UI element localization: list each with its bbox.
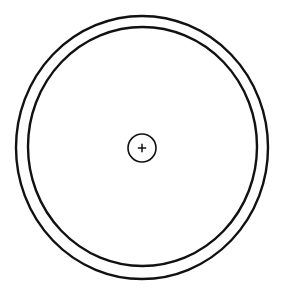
diagram-canvas xyxy=(0,0,283,292)
concentric-rings-diagram xyxy=(0,0,283,292)
center-marker xyxy=(128,134,156,162)
